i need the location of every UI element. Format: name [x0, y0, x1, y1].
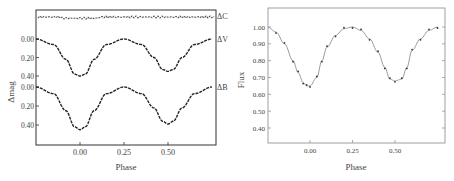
left-chart: 0.000.250.500.000.200.400.000.200.40 ΔCΔ… — [0, 0, 230, 181]
flux-model-curve — [268, 27, 437, 86]
right-y-tick-label: 0.70 — [253, 74, 266, 82]
flux-data-point — [394, 81, 396, 83]
left-y-tick-label: 0.20 — [21, 54, 34, 63]
flux-data-point — [428, 28, 430, 30]
left-x-axis-label: Phase — [116, 162, 137, 172]
flux-data-point — [306, 84, 308, 86]
right-chart: 0.000.250.501.000.900.800.700.600.500.40… — [230, 0, 454, 181]
right-y-tick-label: 0.80 — [253, 57, 266, 65]
flux-data-point — [302, 83, 304, 85]
flux-data-point — [343, 27, 345, 29]
left-y-tick-label: 0.00 — [21, 35, 34, 44]
right-y-tick-label: 0.40 — [253, 125, 266, 133]
flux-data-point — [284, 42, 286, 44]
flux-data-point — [420, 39, 422, 41]
flux-data-point — [352, 27, 354, 29]
right-curves — [268, 27, 438, 88]
right-y-tick-label: 1.00 — [253, 24, 266, 32]
flux-data-point — [321, 61, 323, 63]
left-x-tick-label: 0.00 — [73, 148, 87, 157]
left-y-tick-label: 0.20 — [21, 102, 34, 111]
left-labels: ΔCΔVΔB — [217, 12, 228, 92]
flux-data-point — [297, 71, 299, 73]
left-x-tick-label: 0.25 — [117, 148, 131, 157]
flux-data-point — [384, 68, 386, 70]
flux-data-point — [292, 61, 294, 63]
flux-data-point — [377, 50, 379, 52]
left-plot-frame — [36, 10, 216, 145]
series-delta-c — [38, 16, 214, 19]
right-ticks: 0.000.250.501.000.900.800.700.600.500.40 — [253, 24, 445, 156]
flux-data-point — [316, 76, 318, 78]
left-ticks: 0.000.250.500.000.200.400.000.200.40 — [21, 35, 175, 157]
left-y-tick-label: 0.40 — [21, 121, 34, 130]
right-y-axis-label: Flux — [236, 71, 246, 88]
flux-data-point — [411, 49, 413, 51]
left-x-tick-label: 0.50 — [161, 148, 175, 157]
series-label: ΔC — [217, 12, 227, 21]
right-y-tick-label: 0.60 — [253, 91, 266, 99]
flux-data-point — [437, 27, 439, 29]
left-curves — [36, 16, 214, 130]
flux-data-point — [335, 36, 337, 38]
left-y-tick-label: 0.00 — [21, 83, 34, 92]
right-y-tick-label: 0.90 — [253, 40, 266, 48]
flux-data-point — [275, 32, 277, 34]
left-y-axis-label: Δmag — [6, 81, 16, 103]
flux-data-point — [406, 68, 408, 70]
flux-data-point — [369, 39, 371, 41]
right-chart-svg: 0.000.250.501.000.900.800.700.600.500.40… — [230, 0, 454, 181]
left-chart-svg: 0.000.250.500.000.200.400.000.200.40 ΔCΔ… — [0, 0, 230, 181]
flux-data-point — [360, 28, 362, 30]
flux-data-point — [389, 77, 391, 79]
right-x-axis-label: Phase — [346, 162, 367, 172]
right-x-tick-label: 0.00 — [304, 147, 317, 155]
flux-data-point — [401, 77, 403, 79]
series-delta-v — [36, 39, 212, 76]
left-y-tick-label: 0.40 — [21, 72, 34, 81]
series-label: ΔV — [217, 35, 228, 44]
series-delta-b — [36, 87, 212, 130]
flux-data-point — [326, 45, 328, 47]
right-x-tick-label: 0.25 — [346, 147, 359, 155]
series-label: ΔB — [217, 83, 227, 92]
flux-data-point — [309, 86, 311, 88]
right-y-tick-label: 0.50 — [253, 108, 266, 116]
right-x-tick-label: 0.50 — [389, 147, 402, 155]
